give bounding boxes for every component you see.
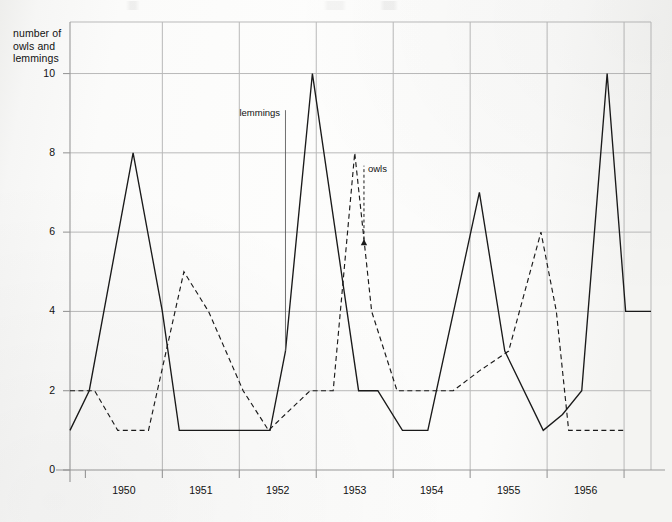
y-tick-label-zero: 0 xyxy=(29,463,55,475)
y-tick-label: 4 xyxy=(29,304,55,316)
x-tick-label: 1951 xyxy=(171,484,231,496)
chart-axes xyxy=(56,22,665,482)
chart-gridlines xyxy=(70,22,651,470)
x-tick-label: 1954 xyxy=(402,484,462,496)
x-tick-label: 1956 xyxy=(556,484,616,496)
series-line-lemmings xyxy=(70,74,651,431)
y-tick-label: 2 xyxy=(29,384,55,396)
line-chart xyxy=(0,0,672,522)
chart-series-lines xyxy=(70,74,651,431)
series-line-owls xyxy=(70,153,626,431)
x-tick-label: 1950 xyxy=(94,484,154,496)
x-tick-label: 1953 xyxy=(325,484,385,496)
annotation-arrowhead-owls xyxy=(361,239,367,245)
y-tick-label: 6 xyxy=(29,225,55,237)
x-tick-label: 1955 xyxy=(479,484,539,496)
scanned-page-background: number of owls and lemmings 246810019501… xyxy=(0,0,672,522)
y-tick-label: 8 xyxy=(29,146,55,158)
x-tick-label: 1952 xyxy=(248,484,308,496)
series-annotation-lemmings: lemmings xyxy=(239,107,280,118)
series-annotation-owls: owls xyxy=(368,163,387,174)
y-tick-label: 10 xyxy=(29,67,55,79)
